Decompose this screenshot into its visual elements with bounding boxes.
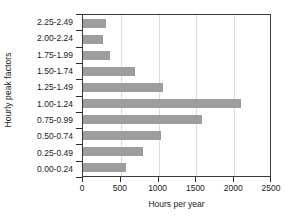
y-tick-label: 1.00-1.24 [16, 95, 78, 111]
bar-row [83, 79, 270, 95]
bar [83, 115, 202, 124]
y-tick-label: 1.75-1.99 [16, 47, 78, 63]
bar-row [83, 15, 270, 31]
bar-chart-figure: Hourly peak factors 2.25-2.492.00-2.241.… [0, 0, 304, 221]
y-tick-label: 0.25-0.49 [16, 144, 78, 160]
bar-row [83, 128, 270, 144]
y-tick-label: 2.00-2.24 [16, 30, 78, 46]
x-axis-title: Hours per year [82, 199, 271, 209]
bar [83, 147, 143, 156]
bar [83, 67, 135, 76]
bar-row [83, 144, 270, 160]
bar [83, 35, 103, 44]
y-tick-label: 0.75-0.99 [16, 112, 78, 128]
bar-row [83, 47, 270, 63]
y-tick-label: 1.50-1.74 [16, 63, 78, 79]
y-axis-title-text: Hourly peak factors [3, 52, 13, 127]
x-tick-mark [270, 177, 271, 182]
y-tick-label: 1.25-1.49 [16, 79, 78, 95]
x-tick-label: 2500 [262, 183, 281, 193]
x-tick-mark [158, 177, 159, 182]
bar [83, 131, 161, 140]
y-tick-label: 0.50-0.74 [16, 128, 78, 144]
bar-row [83, 95, 270, 111]
x-tick-mark [120, 177, 121, 182]
x-axis-tick-labels: 05001000150020002500 [0, 183, 304, 195]
y-axis-title: Hourly peak factors [0, 0, 16, 180]
y-tick-label: 0.00-0.24 [16, 161, 78, 177]
bar [83, 19, 106, 28]
x-tick-label: 0 [80, 183, 85, 193]
bar-row [83, 160, 270, 176]
bar [83, 163, 126, 172]
y-tick-label: 2.25-2.49 [16, 14, 78, 30]
y-axis-tick-labels: 2.25-2.492.00-2.241.75-1.991.50-1.741.25… [16, 14, 78, 177]
bar-row [83, 31, 270, 47]
bar [83, 99, 241, 108]
x-tick-label: 1000 [148, 183, 167, 193]
bar [83, 83, 163, 92]
plot-area [82, 14, 271, 177]
x-tick-label: 1500 [186, 183, 205, 193]
x-tick-mark [233, 177, 234, 182]
x-axis-tick-marks [82, 177, 271, 182]
x-tick-mark [82, 177, 83, 182]
x-tick-label: 2000 [224, 183, 243, 193]
x-tick-label: 500 [113, 183, 127, 193]
bar-series [83, 15, 270, 176]
bar-row [83, 63, 270, 79]
bar-row [83, 112, 270, 128]
bar [83, 51, 110, 60]
x-tick-mark [195, 177, 196, 182]
